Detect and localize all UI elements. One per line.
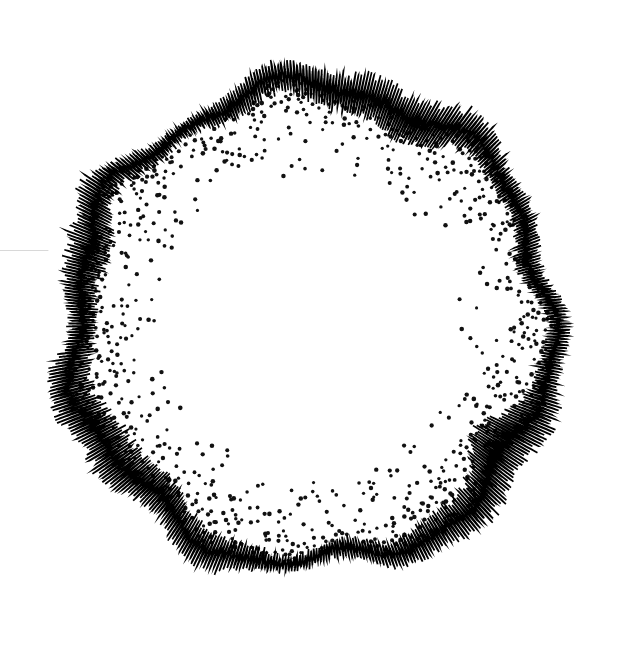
circular-noise-plot (0, 0, 619, 653)
figure-root (0, 0, 619, 653)
